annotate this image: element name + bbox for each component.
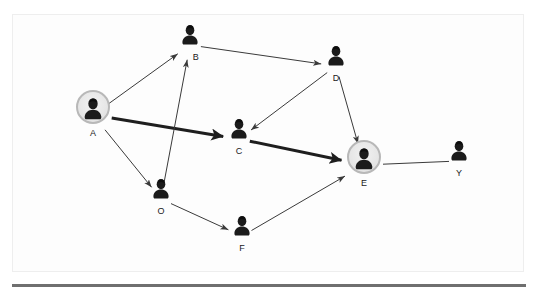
node-avatar-wrap (319, 43, 353, 73)
node-avatar-wrap (76, 92, 110, 122)
node-label-c: C (236, 146, 243, 156)
node-avatar-wrap (144, 176, 178, 206)
graph-node-e[interactable]: E (347, 142, 381, 188)
node-label-e: E (361, 178, 367, 188)
diagram-canvas: ABCDEFOY (0, 0, 538, 290)
node-label-f: F (239, 243, 245, 253)
graph-node-b[interactable]: B (173, 22, 207, 68)
node-label-a: A (90, 128, 96, 138)
graph-node-o[interactable]: O (144, 176, 178, 222)
bottom-divider-rule (12, 284, 526, 287)
graph-node-d[interactable]: D (319, 43, 353, 89)
node-avatar-wrap (442, 138, 476, 168)
graph-node-c[interactable]: C (222, 116, 256, 162)
node-label-d: D (333, 73, 340, 83)
node-avatar-wrap (347, 142, 381, 172)
node-label-y: Y (456, 168, 462, 178)
graph-node-f[interactable]: F (225, 213, 259, 259)
node-label-o: O (157, 206, 164, 216)
node-label-b: B (193, 52, 199, 62)
node-avatar-wrap (225, 213, 259, 243)
node-avatar-wrap (222, 116, 256, 146)
node-avatar-wrap (173, 22, 207, 52)
graph-node-y[interactable]: Y (442, 138, 476, 184)
graph-node-a[interactable]: A (76, 92, 110, 138)
